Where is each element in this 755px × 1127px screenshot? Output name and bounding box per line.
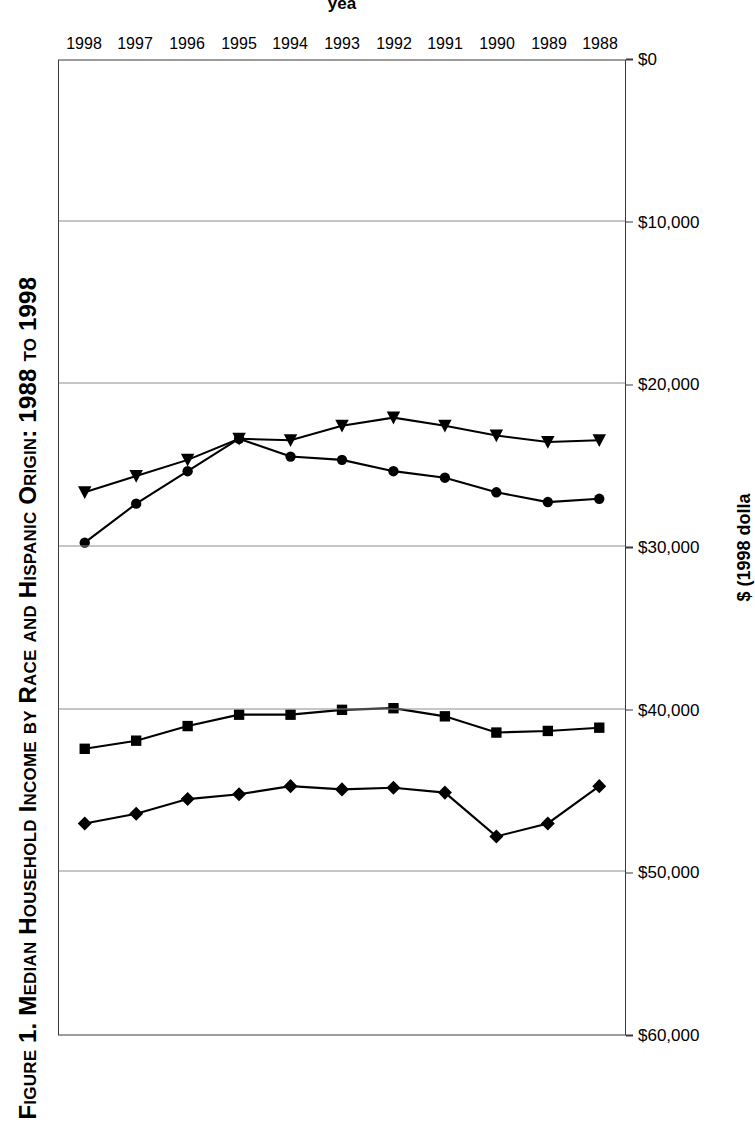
value-axis-label: $0 (638, 49, 657, 69)
category-axis-label: 1992 (376, 34, 412, 52)
series-circle (80, 433, 605, 547)
data-point-diamond (78, 816, 92, 830)
category-axis-label: 1995 (221, 34, 257, 52)
category-axis-label: 1994 (273, 34, 309, 52)
gridline (59, 382, 625, 383)
data-point-circle (182, 466, 192, 476)
data-point-circle (337, 454, 347, 464)
data-point-square (131, 735, 141, 745)
data-point-square (543, 725, 553, 735)
data-point-triangle (78, 486, 91, 499)
data-point-square (285, 709, 295, 719)
value-axis-tickmark (626, 709, 633, 710)
category-axis-label: 1990 (479, 34, 515, 52)
value-axis-label: $60,000 (638, 1025, 699, 1045)
data-point-square (80, 743, 90, 753)
gridline (59, 545, 625, 546)
category-axis-label: 1989 (531, 34, 567, 52)
data-point-circle (594, 493, 604, 503)
value-axis-tickmark (626, 384, 633, 385)
category-axis-label: 1993 (324, 34, 360, 52)
category-axis-label: 1991 (427, 34, 463, 52)
page-title: Figure 1. Median Household Income by Rac… (14, 19, 42, 1119)
value-axis-label: $30,000 (638, 537, 699, 557)
series-diamond (78, 779, 607, 843)
gridline (59, 220, 625, 221)
data-point-circle (440, 472, 450, 482)
data-point-square (491, 727, 501, 737)
gridline (59, 708, 625, 709)
series-square (80, 703, 605, 754)
category-axis-label: 1988 (582, 34, 618, 52)
data-point-triangle (181, 453, 194, 466)
series-line (85, 438, 600, 542)
data-point-circle (131, 498, 141, 508)
value-axis-tickmark (626, 221, 633, 222)
data-point-circle (543, 496, 553, 506)
data-point-triangle (129, 470, 142, 483)
value-axis-tickmark (626, 546, 633, 547)
category-axis-label: 1997 (118, 34, 154, 52)
data-point-diamond (232, 787, 246, 801)
data-point-square (594, 722, 604, 732)
data-point-square (440, 711, 450, 721)
plot-area (58, 59, 626, 1035)
value-axis-label: $10,000 (638, 212, 699, 232)
value-axis-label: $50,000 (638, 862, 699, 882)
data-point-square (337, 704, 347, 714)
value-axis-title: $ (1998 dolla (734, 493, 755, 601)
data-point-diamond (181, 792, 195, 806)
data-point-diamond (386, 780, 400, 794)
data-point-diamond (129, 806, 143, 820)
data-point-square (182, 720, 192, 730)
data-point-circle (491, 487, 501, 497)
data-point-diamond (284, 779, 298, 793)
gridline (59, 870, 625, 871)
value-axis-tickmark (626, 1034, 633, 1035)
data-point-diamond (541, 816, 555, 830)
category-axis-label: 1998 (66, 34, 102, 52)
data-point-circle (388, 466, 398, 476)
data-point-diamond (335, 782, 349, 796)
category-axis-label: 1996 (169, 34, 205, 52)
data-point-square (234, 709, 244, 719)
data-point-circle (285, 451, 295, 461)
series-plot (59, 60, 625, 1034)
value-axis-label: $40,000 (638, 700, 699, 720)
value-axis-tickmark (626, 872, 633, 873)
category-axis-title: yea (328, 0, 356, 13)
value-axis-tickmark (626, 58, 633, 59)
value-axis-label: $20,000 (638, 374, 699, 394)
